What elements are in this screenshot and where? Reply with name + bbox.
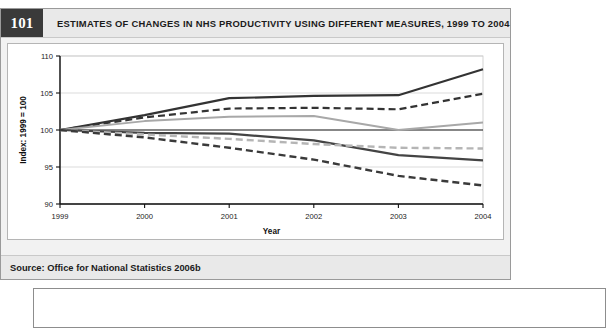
figure-number-badge: 101 — [1, 9, 43, 37]
y-tick-label: 95 — [45, 163, 53, 172]
figure-header: 101 ESTIMATES OF CHANGES IN NHS PRODUCTI… — [1, 9, 510, 38]
x-tick-label: 2001 — [221, 212, 238, 221]
y-tick-label: 105 — [40, 89, 53, 98]
chart-panel: 9095100105110199920002001200220032004Yea… — [7, 43, 504, 240]
x-tick-label: 2000 — [136, 212, 153, 221]
figure-title: ESTIMATES OF CHANGES IN NHS PRODUCTIVITY… — [57, 18, 510, 29]
x-tick-label: 2002 — [305, 212, 322, 221]
chart-series-line — [60, 94, 483, 130]
chart-series-line — [60, 69, 483, 130]
x-tick-label: 2004 — [475, 212, 492, 221]
figure-container: 101 ESTIMATES OF CHANGES IN NHS PRODUCTI… — [0, 8, 511, 280]
y-tick-label: 110 — [41, 52, 53, 61]
source-text: Source: Office for National Statistics 2… — [10, 263, 201, 273]
x-tick-label: 1999 — [52, 212, 69, 221]
line-chart: 9095100105110199920002001200220032004Yea… — [8, 44, 503, 239]
x-axis-title: Year — [263, 227, 281, 236]
x-tick-label: 2003 — [390, 212, 407, 221]
bottom-empty-box — [33, 288, 606, 328]
y-tick-label: 90 — [45, 200, 53, 209]
chart-series-line — [60, 130, 483, 186]
y-tick-label: 100 — [40, 126, 53, 135]
y-axis-title: Index: 1999 = 100 — [19, 96, 28, 164]
chart-series-line — [60, 130, 483, 160]
figure-source: Source: Office for National Statistics 2… — [1, 255, 510, 279]
